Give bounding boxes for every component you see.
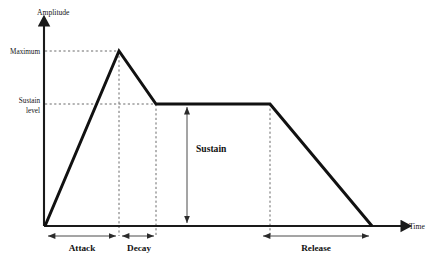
y-tick-sustain-level-line2: level (26, 107, 40, 115)
sustain-phase-label: Sustain (196, 143, 227, 154)
y-tick-sustain-level-line1: Sustain (19, 97, 41, 105)
decay-phase-label: Decay (127, 243, 151, 253)
y-axis-label: Amplitude (37, 8, 70, 17)
y-tick-maximum: Maximum (10, 48, 40, 56)
attack-phase-label: Attack (69, 243, 96, 253)
adsr-envelope-diagram: Amplitude Time Maximum Sustain level Sus… (0, 0, 436, 266)
x-axis-label: Time (409, 222, 425, 231)
release-phase-label: Release (301, 243, 331, 253)
